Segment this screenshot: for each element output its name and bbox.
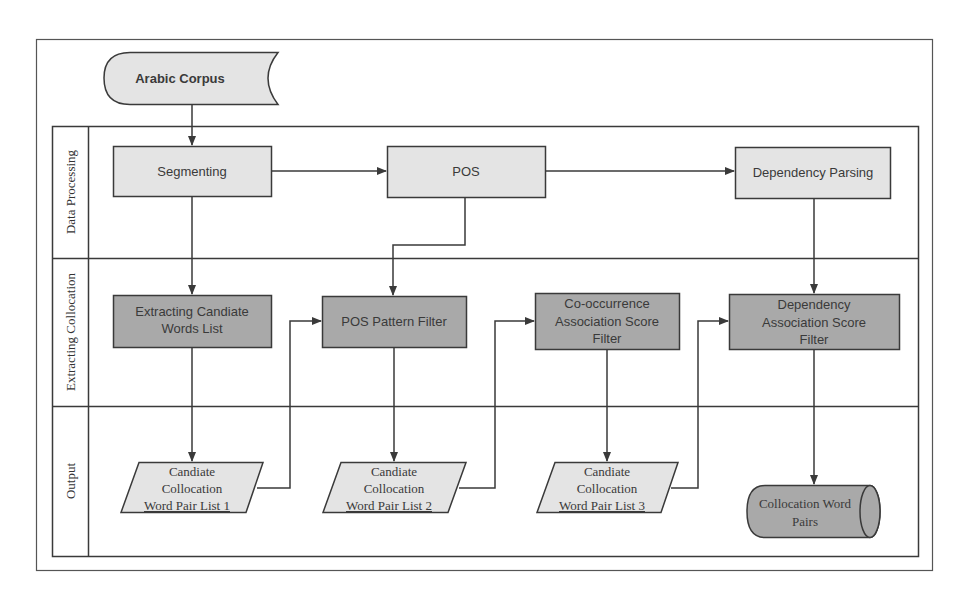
node-list1-label-line3: Word Pair List 1 [144, 498, 230, 513]
node-cooccurrence-association-score-filter: Co-occurrence Association Score Filter [536, 294, 680, 350]
node-segmenting: Segmenting [114, 147, 272, 197]
node-pos: POS [388, 147, 546, 198]
node-pos-pattern-filter: POS Pattern Filter [323, 297, 467, 348]
node-final-label-line2: Pairs [792, 514, 818, 529]
node-extracting-label-line2: Words List [161, 321, 223, 336]
node-dependency-filter-label-line2: Association Score [762, 315, 866, 330]
node-cooccurrence-label-line3: Filter [593, 331, 623, 346]
node-candidate-list-2: Candiate Collocation Word Pair List 2 [323, 463, 466, 514]
node-dependency-parsing: Dependency Parsing [736, 148, 891, 199]
node-dependency-parsing-label: Dependency Parsing [753, 165, 874, 180]
node-list3-label-line3: Word Pair List 3 [559, 498, 645, 513]
node-segmenting-label: Segmenting [157, 164, 226, 179]
node-arabic-corpus: Arabic Corpus [104, 53, 278, 105]
node-arabic-corpus-label: Arabic Corpus [135, 71, 225, 86]
node-cooccurrence-label-line1: Co-occurrence [564, 296, 649, 311]
node-final-label-line1: Collocation Word [759, 496, 852, 511]
node-candidate-list-3: Candiate Collocation Word Pair List 3 [537, 463, 678, 514]
node-pos-label: POS [452, 164, 480, 179]
node-candidate-list-1: Candiate Collocation Word Pair List 1 [121, 463, 263, 514]
node-dependency-filter-label-line1: Dependency [778, 297, 851, 312]
node-list3-label-line2: Collocation [577, 481, 638, 496]
node-list2-label-line2: Collocation [364, 481, 425, 496]
node-list3-label-line1: Candiate [584, 464, 630, 479]
node-list2-label-line1: Candiate [371, 464, 417, 479]
node-extracting-label-line1: Extracting Candiate [135, 304, 248, 319]
flowchart-diagram: Data Processing Extracting Collocation O… [0, 0, 966, 598]
node-dependency-association-score-filter: Dependency Association Score Filter [730, 295, 900, 350]
node-collocation-word-pairs: Collocation Word Pairs [747, 486, 880, 538]
node-list1-label-line1: Candiate [169, 464, 215, 479]
node-pos-pattern-filter-label: POS Pattern Filter [341, 314, 447, 329]
node-dependency-filter-label-line3: Filter [800, 332, 830, 347]
node-extracting-candidate-words-list: Extracting Candiate Words List [114, 296, 272, 348]
lane-label-output: Output [63, 463, 78, 500]
node-list2-label-line3: Word Pair List 2 [346, 498, 432, 513]
node-list1-label-line2: Collocation [162, 481, 223, 496]
lane-label-extracting-collocation: Extracting Collocation [63, 272, 78, 391]
node-cooccurrence-label-line2: Association Score [555, 314, 659, 329]
lane-label-data-processing: Data Processing [63, 149, 78, 234]
